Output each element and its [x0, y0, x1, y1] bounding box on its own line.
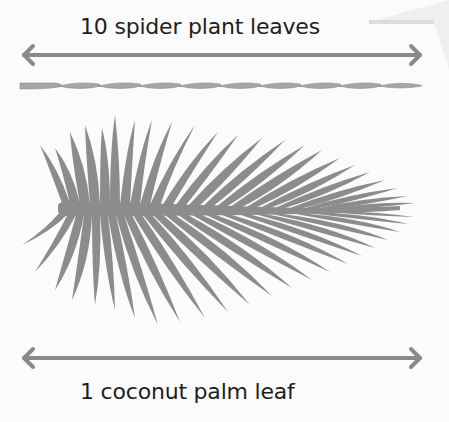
top-double-arrow — [24, 46, 420, 64]
coconut-palm-label: 1 coconut palm leaf — [80, 379, 295, 404]
coconut-palm-leaf — [22, 115, 415, 325]
bottom-double-arrow — [24, 349, 420, 367]
diagram-canvas — [0, 0, 449, 422]
spider-plant-leaves — [20, 83, 422, 89]
